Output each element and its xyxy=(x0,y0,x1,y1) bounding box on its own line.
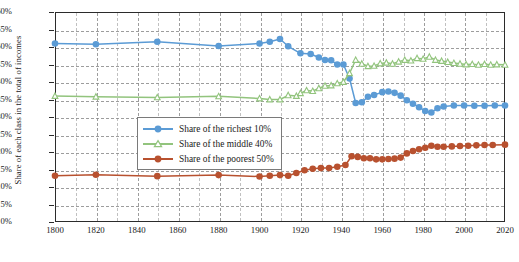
data-point xyxy=(285,43,292,50)
income-share-line-chart: Share of each class in the total of inco… xyxy=(0,0,519,262)
data-point xyxy=(482,61,488,66)
data-point xyxy=(215,43,222,50)
data-point xyxy=(347,70,353,75)
data-point xyxy=(396,59,402,64)
data-point xyxy=(293,170,300,177)
series-share-of-the-richest-10 xyxy=(52,36,509,116)
data-point xyxy=(301,167,308,174)
data-point xyxy=(457,61,463,66)
data-point xyxy=(354,154,361,161)
data-point xyxy=(391,155,398,162)
data-point xyxy=(318,165,325,172)
legend-swatch-richest-icon xyxy=(143,123,173,135)
data-point xyxy=(365,63,371,68)
data-point xyxy=(352,100,359,107)
chart-legend: Share of the richest 10% Share of the mi… xyxy=(137,117,282,170)
data-point xyxy=(502,62,508,67)
legend-label-poorest: Share of the poorest 50% xyxy=(173,154,274,164)
data-point xyxy=(359,61,365,66)
data-point xyxy=(440,143,447,150)
data-point xyxy=(465,142,472,149)
data-point xyxy=(391,90,398,97)
data-point xyxy=(257,95,263,100)
data-point xyxy=(266,38,273,45)
data-point xyxy=(408,58,414,63)
data-point xyxy=(471,103,478,110)
data-point xyxy=(420,56,426,61)
data-point xyxy=(154,94,160,99)
data-point xyxy=(377,60,383,65)
data-point xyxy=(93,41,100,48)
data-point xyxy=(422,145,429,152)
legend-item-middle[interactable]: Share of the middle 40% xyxy=(143,136,274,151)
data-point xyxy=(277,172,284,179)
data-point xyxy=(384,60,390,65)
data-point xyxy=(304,87,310,92)
data-point xyxy=(52,40,59,47)
data-point xyxy=(502,102,509,109)
data-point xyxy=(476,62,482,67)
data-point xyxy=(488,62,494,67)
data-point xyxy=(285,92,291,97)
data-point xyxy=(416,104,423,111)
data-point xyxy=(340,61,347,68)
data-point xyxy=(359,99,366,106)
data-point xyxy=(451,60,457,65)
legend-item-richest[interactable]: Share of the richest 10% xyxy=(143,121,274,136)
legend-label-middle: Share of the middle 40% xyxy=(173,139,272,149)
data-point xyxy=(361,155,368,162)
data-point xyxy=(348,153,355,160)
series-line xyxy=(55,57,505,100)
data-point xyxy=(216,93,222,98)
data-point xyxy=(316,54,323,61)
data-point xyxy=(489,142,496,149)
data-point xyxy=(410,100,417,107)
legend-label-richest: Share of the richest 10% xyxy=(173,124,271,134)
data-point xyxy=(334,163,341,170)
data-point xyxy=(397,92,404,99)
series-share-of-the-middle-40 xyxy=(52,54,508,102)
data-point xyxy=(434,105,441,112)
data-point xyxy=(426,54,432,59)
data-point xyxy=(402,57,408,62)
data-point xyxy=(385,156,392,163)
data-point xyxy=(502,141,509,148)
data-point xyxy=(310,88,316,93)
data-point xyxy=(491,102,498,109)
data-point xyxy=(322,83,328,88)
data-point xyxy=(328,83,334,88)
data-point xyxy=(461,102,468,109)
data-point xyxy=(277,97,283,102)
data-point xyxy=(494,62,500,67)
data-point xyxy=(298,90,304,95)
data-point xyxy=(473,142,480,149)
data-point xyxy=(52,173,59,180)
data-point xyxy=(285,173,292,180)
data-point xyxy=(397,154,404,161)
data-point xyxy=(215,172,222,179)
data-point xyxy=(367,155,374,162)
data-point xyxy=(328,57,335,64)
data-point xyxy=(445,59,451,64)
data-point xyxy=(326,165,333,172)
data-point xyxy=(439,58,445,63)
data-point xyxy=(390,61,396,66)
data-point xyxy=(379,156,386,163)
data-point xyxy=(404,97,411,104)
data-point xyxy=(309,166,316,173)
data-point xyxy=(422,108,429,115)
data-point xyxy=(463,62,469,67)
data-point xyxy=(434,143,441,150)
data-point xyxy=(365,93,372,100)
data-point xyxy=(416,146,423,153)
legend-swatch-poorest-icon xyxy=(143,153,173,165)
legend-item-poorest[interactable]: Share of the poorest 50% xyxy=(143,151,274,166)
data-point xyxy=(316,85,322,90)
data-point xyxy=(451,102,458,109)
data-point xyxy=(256,173,263,180)
data-point xyxy=(342,162,349,169)
data-point xyxy=(373,156,380,163)
data-point xyxy=(297,50,304,57)
data-point xyxy=(385,88,392,95)
data-point xyxy=(154,173,161,180)
